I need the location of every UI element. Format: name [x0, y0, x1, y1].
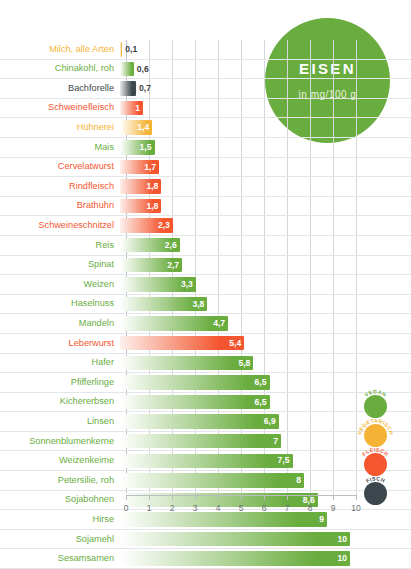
- chart-row: Chinakohl, roh0,6: [0, 60, 411, 80]
- chart-row: Mais1,5: [0, 138, 411, 158]
- bar: 2,7: [120, 258, 182, 273]
- bar-area: 3,8: [120, 297, 350, 312]
- legend-item-vegan[interactable]: VEGAN: [352, 390, 408, 418]
- row-label: Mais: [0, 143, 120, 152]
- axis-tick-label: 7: [285, 503, 290, 513]
- chart-row: Leberwurst5,4: [0, 334, 411, 354]
- bar: 10: [120, 551, 350, 566]
- bar-area: 7: [120, 434, 350, 449]
- legend-item-fisch[interactable]: FISCH: [352, 477, 408, 505]
- bar: [120, 62, 134, 77]
- row-label: Mandeln: [0, 319, 120, 328]
- row-label: Sesamsamen: [0, 554, 120, 563]
- row-label: Hühnerei: [0, 123, 120, 132]
- bar-value: 0,1: [125, 45, 137, 54]
- legend-color-dot: [364, 482, 387, 505]
- axis-tick-label: 2: [170, 503, 175, 513]
- chart-row: Cervelatwurst1,7: [0, 158, 411, 178]
- axis-tick-label: 9: [331, 503, 336, 513]
- row-label: Schweineschnitzel: [0, 221, 120, 230]
- bar-area: 2,6: [120, 238, 350, 253]
- row-label: Milch, alle Arten: [0, 45, 120, 54]
- axis-tick-label: 4: [216, 503, 221, 513]
- row-label: Weizen: [0, 280, 120, 289]
- axis-tick-label: 1: [147, 503, 152, 513]
- bar-value: 0,7: [139, 84, 151, 93]
- bar-area: 4,7: [120, 316, 350, 331]
- bar-area: 0,1: [120, 42, 350, 57]
- row-label: Rindfleisch: [0, 182, 120, 191]
- chart-row: Schweineschnitzel2,3: [0, 216, 411, 236]
- chart-row: Linsen6,9: [0, 412, 411, 432]
- bar-area: 0,6: [120, 62, 350, 77]
- chart-row: Weizen3,3: [0, 275, 411, 295]
- bar: 2,6: [120, 238, 180, 253]
- bar: 1,5: [120, 140, 155, 155]
- bar-value: 1,8: [146, 182, 161, 191]
- bar-area: 3,3: [120, 277, 350, 292]
- axis-tick: [287, 495, 288, 500]
- bar-area: 1,8: [120, 179, 350, 194]
- bar: 1,8: [120, 179, 161, 194]
- bar-area: 10: [120, 532, 350, 547]
- bar: 7: [120, 434, 281, 449]
- bar-value: 2,6: [165, 241, 180, 250]
- chart-row: Sojamehl10: [0, 530, 411, 550]
- row-label: Linsen: [0, 417, 120, 426]
- bar: 7,5: [120, 454, 293, 469]
- bar: 8: [120, 473, 304, 488]
- chart-row: Milch, alle Arten0,1: [0, 40, 411, 60]
- axis-tick: [195, 495, 196, 500]
- axis-tick: [241, 495, 242, 500]
- legend-color-dot: [364, 453, 387, 476]
- axis-tick: [126, 495, 127, 500]
- row-label: Hafer: [0, 358, 120, 367]
- row-label: Sonnenblumenkerne: [0, 437, 120, 446]
- bar: 10: [120, 532, 350, 547]
- bar: 1: [120, 101, 143, 116]
- bar-area: 2,7: [120, 258, 350, 273]
- bar-value: 3,3: [181, 280, 196, 289]
- bar-value: 6,9: [264, 417, 279, 426]
- bar-area: 5,8: [120, 356, 350, 371]
- bar: 1,4: [120, 120, 152, 135]
- bar-value: 2,7: [167, 261, 182, 270]
- bar: 5,4: [120, 336, 244, 351]
- bar-area: 2,3: [120, 218, 350, 233]
- chart-row: Sonnenblumenkerne7: [0, 432, 411, 452]
- legend-color-dot: [364, 395, 387, 418]
- axis-tick-label: 5: [239, 503, 244, 513]
- row-label: Bachforelle: [0, 84, 120, 93]
- bar-value: 7,5: [278, 456, 293, 465]
- chart-row: Kichererbsen6,5: [0, 393, 411, 413]
- legend-item-vegetarisch[interactable]: VEGETARISCH: [352, 419, 408, 447]
- chart-row: Bachforelle0,7: [0, 79, 411, 99]
- chart-row: Petersilie, roh8: [0, 471, 411, 491]
- axis-tick: [333, 495, 334, 500]
- bar-value: 1,4: [137, 123, 152, 132]
- row-label: Sojamehl: [0, 535, 120, 544]
- row-label: Schweinefleisch: [0, 103, 120, 112]
- chart-row: Sesamsamen10: [0, 549, 411, 569]
- bar-area: 1,7: [120, 160, 350, 175]
- axis-tick: [310, 495, 311, 500]
- bar: 4,7: [120, 316, 228, 331]
- bar: 6,5: [120, 395, 270, 410]
- bar-area: 0,7: [120, 81, 350, 96]
- chart-rows: Milch, alle Arten0,1Chinakohl, roh0,6Bac…: [0, 40, 411, 569]
- chart-row: Reis2,6: [0, 236, 411, 256]
- row-label: Cervelatwurst: [0, 162, 120, 171]
- x-axis: 012345678910: [126, 495, 356, 525]
- row-label: Reis: [0, 241, 120, 250]
- bar-area: 1,8: [120, 199, 350, 214]
- axis-tick: [218, 495, 219, 500]
- row-label: Spinat: [0, 260, 120, 269]
- chart-row: Hafer5,8: [0, 354, 411, 374]
- bar: 6,5: [120, 375, 270, 390]
- bar-area: 1: [120, 101, 350, 116]
- row-label: Sojabohnen: [0, 495, 120, 504]
- chart-row: Pfifferlinge6,5: [0, 373, 411, 393]
- chart-row: Rindfleisch1,8: [0, 177, 411, 197]
- bar: 1,7: [120, 160, 159, 175]
- legend-item-fleisch[interactable]: FLEISCH: [352, 448, 408, 476]
